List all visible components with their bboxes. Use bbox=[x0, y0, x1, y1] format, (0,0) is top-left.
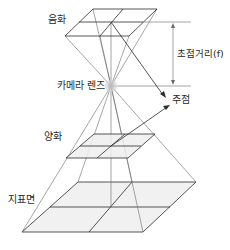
ground-surface-label: 지표면 bbox=[8, 194, 35, 206]
camera-lens-icon bbox=[105, 80, 117, 92]
aerial-photo-geometry-diagram: 음화 초점거리(f) 카메라 렌즈 주점 양화 지표면 bbox=[0, 0, 230, 250]
negative-label: 음화 bbox=[48, 14, 66, 26]
camera-lens-label: 카메라 렌즈 bbox=[57, 80, 105, 92]
positive-label: 양화 bbox=[44, 131, 62, 143]
principal-point-arrow-top bbox=[111, 22, 166, 98]
principal-point-label: 주점 bbox=[172, 94, 190, 106]
focal-length-label: 초점거리(f) bbox=[177, 48, 224, 60]
diagram-canvas bbox=[0, 0, 230, 250]
